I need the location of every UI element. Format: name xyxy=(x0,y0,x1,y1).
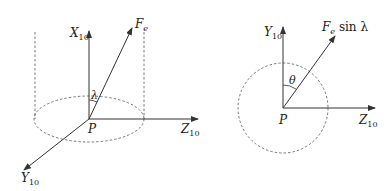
origin-p-label: P xyxy=(87,122,97,136)
force-fe-sin-lambda-vector xyxy=(283,36,335,108)
x10-label: X10 xyxy=(69,26,89,42)
diagram-canvas: X10 Fe λ P Z10 Y10 Y10 Fe sin λ θ P Z10 xyxy=(0,0,388,191)
y10-label-right: Y10 xyxy=(264,25,282,41)
z10-label-right: Z10 xyxy=(358,113,378,129)
theta-label: θ xyxy=(289,74,296,87)
right-planar-diagram: Y10 Fe sin λ θ P Z10 xyxy=(238,20,378,153)
force-fe-vector xyxy=(89,28,132,119)
fe-label: Fe xyxy=(134,17,148,33)
y10-axis xyxy=(24,119,89,170)
origin-p-label-right: P xyxy=(278,113,288,127)
fe-sin-lambda-label: Fe sin λ xyxy=(321,20,368,36)
z10-label: Z10 xyxy=(180,122,200,138)
lambda-label: λ xyxy=(90,89,98,102)
y10-label: Y10 xyxy=(21,171,39,187)
left-3d-diagram: X10 Fe λ P Z10 Y10 xyxy=(21,17,200,187)
